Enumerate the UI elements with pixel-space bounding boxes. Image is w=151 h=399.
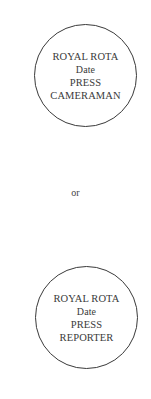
- badge-press-label: PRESS: [70, 76, 101, 89]
- badge-role-label: REPORTER: [60, 331, 114, 344]
- badge-title: ROYAL ROTA: [53, 50, 119, 63]
- badge-role-label: CAMERAMAN: [50, 89, 120, 102]
- badge-date-label: Date: [77, 305, 96, 318]
- press-cameraman-badge: ROYAL ROTA Date PRESS CAMERAMAN: [34, 24, 137, 127]
- badge-date-label: Date: [76, 63, 95, 76]
- badge-press-label: PRESS: [71, 318, 102, 331]
- or-separator: or: [0, 187, 151, 199]
- badge-title: ROYAL ROTA: [54, 292, 120, 305]
- press-reporter-badge: ROYAL ROTA Date PRESS REPORTER: [35, 266, 138, 369]
